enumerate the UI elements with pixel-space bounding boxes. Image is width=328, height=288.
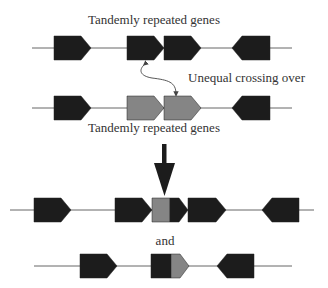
crossover-label: Unequal crossing over	[188, 70, 306, 85]
gene-dark-icon	[262, 198, 299, 222]
gene-dark-icon	[80, 254, 117, 278]
gene-gray-icon	[164, 96, 201, 120]
product-deletion	[34, 254, 292, 278]
product-duplication	[10, 198, 314, 222]
title-middle: Tandemly repeated genes	[88, 120, 220, 135]
and-label: and	[156, 233, 175, 248]
gene-dark-icon	[151, 254, 171, 278]
gene-dark-icon	[188, 198, 226, 222]
unequal-crossing-over-diagram: Tandemly repeated genes Unequal crossing…	[0, 0, 328, 288]
gene-gray-icon	[152, 198, 170, 222]
chromosome-1	[32, 36, 292, 60]
gene-dark-icon	[232, 36, 270, 60]
gene-dark-icon	[34, 198, 71, 222]
gene-dark-icon	[115, 198, 152, 222]
title-top: Tandemly repeated genes	[88, 12, 220, 27]
chromosome-2	[32, 96, 292, 120]
gene-dark-icon	[232, 96, 270, 120]
gene-dark-icon	[54, 96, 91, 120]
gene-dark-icon	[217, 254, 254, 278]
gene-dark-icon	[127, 36, 164, 60]
gene-dark-icon	[170, 198, 188, 222]
gene-gray-icon	[127, 96, 164, 120]
crossover-curved-arrow-icon	[141, 64, 176, 94]
gene-gray-icon	[171, 254, 189, 278]
down-arrow-icon	[154, 144, 175, 196]
gene-dark-icon	[54, 36, 91, 60]
gene-dark-icon	[164, 36, 201, 60]
